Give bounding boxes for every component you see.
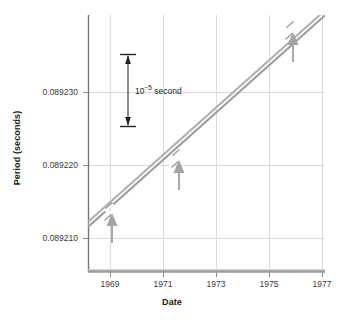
x-tick-label-4: 1977 xyxy=(302,279,342,289)
scale-bar-unit-text: second xyxy=(154,86,181,96)
y-tick-label-1: 0.089220 xyxy=(16,160,78,170)
y-tick-marks xyxy=(83,93,88,239)
x-tick-label-0: 1969 xyxy=(90,279,130,289)
x-axis-title: Date xyxy=(0,297,344,307)
x-tick-label-3: 1975 xyxy=(249,279,289,289)
plot-background xyxy=(88,15,325,272)
scale-bar-label: 10−5 second xyxy=(135,84,182,96)
y-tick-label-0: 0.089230 xyxy=(16,87,78,97)
y-tick-label-2: 0.089210 xyxy=(16,233,78,243)
x-tick-label-2: 1973 xyxy=(196,279,236,289)
x-tick-label-1: 1971 xyxy=(143,279,183,289)
scale-bar-exponent: −5 xyxy=(144,84,151,91)
y-axis-title: Period (seconds) xyxy=(12,88,22,208)
chart-figure: 0.089230 0.089220 0.089210 1969 1971 197… xyxy=(0,0,344,320)
